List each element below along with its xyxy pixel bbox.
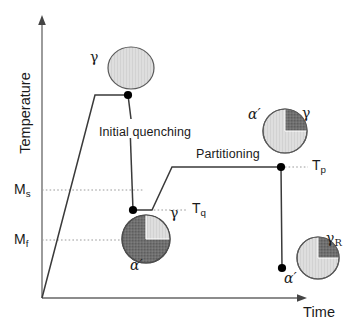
marker-partitioning-end	[277, 163, 285, 171]
mf-label-sub: f	[26, 238, 29, 249]
tq-temperature-label: Tq	[192, 201, 206, 218]
mf-label-main: M	[14, 231, 26, 247]
phase-label-gamma-partitioned: γ	[302, 106, 310, 120]
microstructure-partitioned	[263, 109, 307, 153]
phase-label-alpha-prime-final: α′	[284, 271, 297, 285]
phase-label-alpha-prime-as-quenched: α′	[130, 258, 143, 272]
qp-process-diagram	[0, 0, 356, 333]
tp-label-sub: p	[321, 164, 326, 175]
tq-label-sub: q	[201, 207, 206, 218]
phase-label-gamma-retained-final: γR	[326, 231, 342, 248]
partitioning-label: Partitioning	[196, 148, 260, 161]
initial-quenching-label: Initial quenching	[99, 126, 191, 139]
figure-canvas: Temperature Time Ms Mf Tq Tp Initial que…	[0, 0, 356, 333]
x-axis-label: Time	[303, 305, 335, 320]
tp-temperature-label: Tp	[312, 158, 326, 175]
y-axis-label: Temperature	[17, 58, 33, 168]
gamma-retained-sub: R	[334, 237, 341, 248]
ms-label-sub: s	[26, 188, 31, 199]
ms-temperature-label: Ms	[14, 182, 31, 199]
marker-austenitizing-end	[124, 91, 132, 99]
marker-quench-stop	[129, 206, 137, 214]
initial-quench-segment-lower	[130, 138, 133, 210]
guide-line-group	[42, 167, 308, 240]
tq-label-main: T	[192, 200, 201, 216]
phase-label-gamma-as-quenched: γ	[170, 206, 178, 220]
y-axis-arrowhead	[38, 15, 46, 25]
microstructure-group	[108, 47, 339, 279]
phase-label-gamma-austenite: γ	[90, 50, 98, 64]
mf-temperature-label: Mf	[14, 232, 28, 249]
microstructure-austenite	[108, 47, 154, 89]
microstructure-as-quenched	[122, 215, 170, 263]
phase-label-alpha-prime-partitioned: α′	[248, 107, 261, 121]
ms-label-main: M	[14, 181, 26, 197]
tp-label-main: T	[312, 157, 321, 173]
x-axis-arrowhead	[297, 294, 307, 302]
